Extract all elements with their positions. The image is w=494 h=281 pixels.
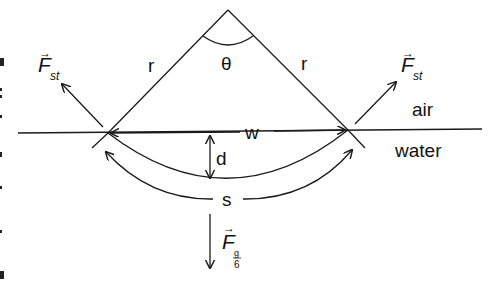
water-label: water xyxy=(394,140,442,161)
meniscus-curve xyxy=(108,130,348,178)
arc-length-label: s xyxy=(222,189,232,210)
svg-text:st: st xyxy=(413,69,423,83)
page-edge-marks xyxy=(0,58,4,279)
depth-label: d xyxy=(216,148,227,169)
svg-text:g: g xyxy=(234,248,239,258)
tangent-right xyxy=(348,130,365,148)
surface-tension-arrow-left xyxy=(62,84,103,127)
radius-line-left xyxy=(108,10,228,133)
air-label: air xyxy=(412,99,434,120)
surface-tension-label-left: → F st xyxy=(38,46,60,83)
surface-tension-label-right: → F st xyxy=(401,46,423,83)
radius-label-left: r xyxy=(148,55,155,76)
surface-tension-arrow-right xyxy=(355,82,396,124)
radius-label-right: r xyxy=(301,53,308,74)
svg-text:6: 6 xyxy=(234,259,240,270)
radius-line-right xyxy=(228,10,348,130)
width-label: w xyxy=(244,122,259,143)
theta-arc xyxy=(203,36,253,45)
gravity-force-label: → F g 6 xyxy=(222,221,241,270)
tangent-left xyxy=(92,133,108,148)
surface-tension-diagram: θ r r → F st → F st air water w d s → F … xyxy=(0,0,494,281)
svg-text:st: st xyxy=(50,69,60,83)
theta-label: θ xyxy=(221,53,232,74)
